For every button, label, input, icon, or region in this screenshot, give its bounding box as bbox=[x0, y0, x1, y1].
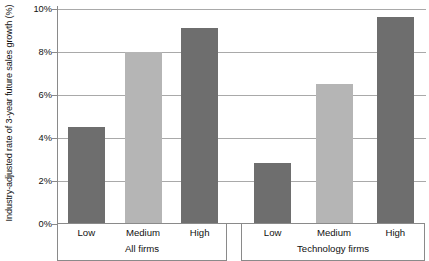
bar-all-firms-low bbox=[68, 127, 105, 224]
category-tick-labels: LowMediumHigh bbox=[242, 224, 424, 243]
y-axis-tick-labels: 10%8%6%4%2%0% bbox=[18, 0, 52, 261]
group-label: Technology firms bbox=[242, 243, 424, 254]
gridline bbox=[58, 181, 426, 182]
category-label-high: High bbox=[385, 227, 405, 238]
category-group-technology-firms: LowMediumHighTechnology firms bbox=[241, 224, 425, 261]
y-tick-mark bbox=[52, 224, 57, 225]
bar-technology-firms-medium bbox=[316, 84, 353, 224]
category-label-high: High bbox=[190, 227, 210, 238]
y-tick-label: 2% bbox=[20, 176, 52, 186]
gridline bbox=[58, 52, 426, 53]
y-tick-label: 4% bbox=[20, 133, 52, 143]
y-tick-mark bbox=[52, 138, 57, 139]
group-label: All firms bbox=[58, 243, 226, 254]
y-tick-mark bbox=[52, 9, 57, 10]
plot-area bbox=[57, 6, 425, 224]
y-tick-mark bbox=[52, 95, 57, 96]
y-tick-label: 6% bbox=[20, 90, 52, 100]
y-tick-label: 10% bbox=[20, 4, 52, 14]
bar-technology-firms-low bbox=[254, 163, 291, 223]
category-label-low: Low bbox=[78, 227, 96, 238]
y-tick-mark bbox=[52, 181, 57, 182]
y-tick-label: 0% bbox=[20, 219, 52, 229]
bar-all-firms-high bbox=[181, 28, 218, 224]
gridline bbox=[58, 138, 426, 139]
bar-technology-firms-high bbox=[377, 17, 414, 223]
category-label-medium: Medium bbox=[126, 227, 160, 238]
y-axis-title: Industry-adjusted rate of 3-year future … bbox=[0, 0, 18, 226]
bar-all-firms-medium bbox=[125, 52, 162, 224]
y-tick-label: 8% bbox=[20, 47, 52, 57]
y-axis-title-text: Industry-adjusted rate of 3-year future … bbox=[4, 5, 14, 222]
category-label-low: Low bbox=[264, 227, 282, 238]
category-tick-labels: LowMediumHigh bbox=[58, 224, 226, 243]
bar-chart: Industry-adjusted rate of 3-year future … bbox=[0, 0, 429, 261]
category-axis: LowMediumHighAll firmsLowMediumHighTechn… bbox=[57, 224, 425, 261]
category-label-medium: Medium bbox=[317, 227, 351, 238]
category-group-all-firms: LowMediumHighAll firms bbox=[57, 224, 227, 261]
gridline bbox=[58, 9, 426, 10]
gridline bbox=[58, 95, 426, 96]
y-tick-mark bbox=[52, 52, 57, 53]
